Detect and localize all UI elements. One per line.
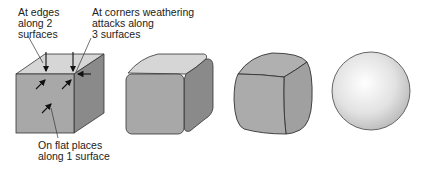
sharp-cube	[16, 36, 104, 138]
weathering-diagram	[0, 0, 424, 169]
sphere	[332, 52, 410, 130]
rounded-edges-cube	[126, 54, 213, 134]
rounded-block	[234, 53, 312, 134]
